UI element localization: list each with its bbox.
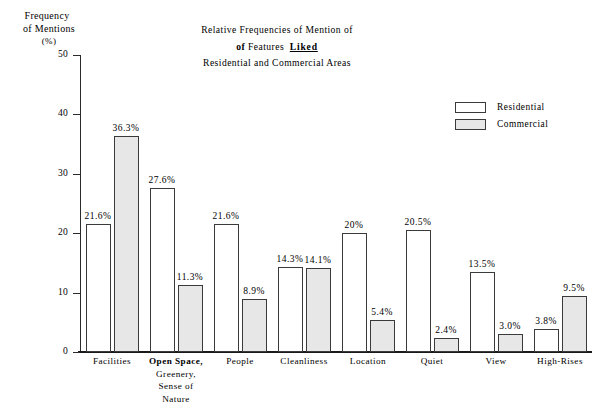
x-axis-label-line: Greenery,: [132, 368, 220, 381]
bar-chart: Frequency of Mentions (%) Relative Frequ…: [0, 0, 610, 409]
bar-commercial: [306, 268, 331, 352]
bar-commercial: [434, 338, 459, 352]
bar-value-label: 20.5%: [398, 217, 439, 227]
bar-value-label: 14.1%: [298, 255, 339, 265]
x-axis-label-line: High-Rises: [516, 355, 604, 368]
bar-value-label: 21.6%: [78, 211, 119, 221]
bar-value-label: 5.4%: [362, 307, 403, 317]
bar-value-label: 3.0%: [490, 321, 531, 331]
y-axis-tick: [73, 233, 80, 234]
x-axis-label-line: Sense of: [132, 380, 220, 393]
bar-value-label: 11.3%: [170, 272, 211, 282]
y-axis-tick-label: 20: [46, 228, 68, 238]
chart-title-bold-lead: of: [236, 41, 245, 52]
y-axis-tick: [73, 114, 80, 115]
bar-value-label: 21.6%: [206, 211, 247, 221]
chart-title-underlined-word: Liked: [290, 41, 318, 52]
bar-residential: [470, 272, 495, 352]
y-axis-tick-label: 40: [46, 109, 68, 119]
bar-value-label: 3.8%: [526, 316, 567, 326]
bar-value-label: 8.9%: [234, 286, 275, 296]
y-axis-tick: [73, 293, 80, 294]
bar-commercial: [498, 334, 523, 352]
bar-residential: [342, 233, 367, 352]
plot-area: 01020304050 21.6%36.3%27.6%11.3%21.6%8.9…: [80, 55, 592, 352]
x-axis-label-line: Nature: [132, 393, 220, 406]
bar-value-label: 20%: [334, 220, 375, 230]
y-axis-tick: [73, 352, 80, 353]
bar-commercial: [242, 299, 267, 352]
bar-residential: [278, 267, 303, 352]
x-axis-label: High-Rises: [516, 355, 604, 368]
bar-commercial: [562, 296, 587, 352]
y-axis-tick-label: 30: [46, 169, 68, 179]
bar-value-label: 9.5%: [554, 283, 595, 293]
bar-value-label: 27.6%: [142, 175, 183, 185]
bar-residential: [534, 329, 559, 352]
bar-value-label: 2.4%: [426, 325, 467, 335]
chart-title-regular-word: Features: [248, 41, 284, 52]
bar-commercial: [370, 320, 395, 352]
y-axis-tick-label: 0: [46, 347, 68, 357]
y-axis-title: Frequency of Mentions (%): [6, 10, 92, 48]
y-axis-tick: [73, 174, 80, 175]
chart-title-line-1: Relative Frequencies of Mention of: [148, 22, 406, 39]
bar-commercial: [114, 136, 139, 352]
y-axis-title-line-2: of Mentions: [6, 23, 92, 36]
y-axis-title-line-1: Frequency: [6, 10, 92, 23]
bar-commercial: [178, 285, 203, 352]
chart-title-line-2: of Features Liked: [148, 39, 406, 56]
bar-residential: [86, 224, 111, 352]
bar-residential: [150, 188, 175, 352]
bar-value-label: 13.5%: [462, 259, 503, 269]
y-axis-line: [80, 55, 81, 352]
y-axis-title-line-3: (%): [6, 35, 92, 48]
y-axis-tick-label: 50: [46, 50, 68, 60]
bar-value-label: 36.3%: [106, 123, 147, 133]
y-axis-tick: [73, 55, 80, 56]
y-axis-tick-label: 10: [46, 288, 68, 298]
